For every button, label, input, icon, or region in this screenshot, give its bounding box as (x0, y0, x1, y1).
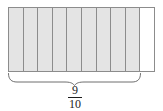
shaded-strip (67, 8, 82, 71)
shaded-strip (9, 8, 24, 71)
fraction-strip-bar (8, 7, 155, 72)
shaded-strip (97, 8, 112, 71)
shaded-strip (24, 8, 39, 71)
shaded-strip (126, 8, 141, 71)
shaded-strip (82, 8, 97, 71)
shaded-strip (111, 8, 126, 71)
fraction-denominator: 10 (68, 97, 82, 111)
fraction-diagram: 9 10 (0, 0, 163, 111)
unshaded-strip (140, 8, 154, 71)
shaded-strip (38, 8, 53, 71)
fraction-label: 9 10 (68, 84, 82, 110)
fraction-numerator: 9 (72, 84, 78, 97)
shaded-strip (53, 8, 68, 71)
